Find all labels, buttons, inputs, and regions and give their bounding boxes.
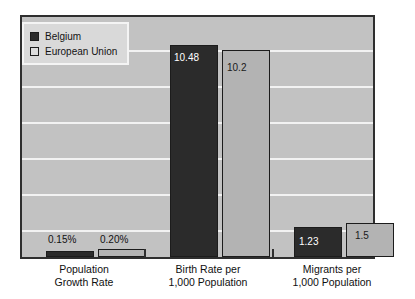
axis-tick — [272, 249, 274, 257]
category-label-population-growth-rate: Population Growth Rate — [20, 263, 148, 289]
category-label-line: 1,000 Population — [144, 276, 272, 289]
bar-label-belgium-population-growth-rate: 0.15% — [48, 234, 76, 245]
category-label-line: Population — [20, 263, 148, 276]
bar-european-union-migrants[interactable] — [346, 223, 394, 257]
legend-swatch-icon — [30, 32, 39, 41]
category-axis-labels: Population Growth Rate Birth Rate per 1,… — [20, 263, 375, 297]
bar-label-european-union-population-growth-rate: 0.20% — [100, 234, 128, 245]
category-label-line: 1,000 Population — [268, 276, 396, 289]
legend-label: European Union — [45, 46, 117, 57]
axis-tick — [144, 249, 146, 257]
bar-european-union-population-growth-rate[interactable] — [98, 249, 146, 257]
bar-belgium-birth-rate[interactable] — [170, 45, 218, 257]
bar-label-european-union-migrants: 1.5 — [355, 230, 369, 241]
legend-label: Belgium — [45, 31, 81, 42]
bar-european-union-birth-rate[interactable] — [222, 50, 270, 257]
category-label-line: Birth Rate per — [144, 263, 272, 276]
legend-item-european-union[interactable]: European Union — [30, 44, 117, 58]
category-label-migrants: Migrants per 1,000 Population — [268, 263, 396, 289]
category-label-line: Growth Rate — [20, 276, 148, 289]
bar-label-belgium-birth-rate: 10.48 — [174, 52, 199, 63]
category-label-birth-rate: Birth Rate per 1,000 Population — [144, 263, 272, 289]
legend: Belgium European Union — [22, 22, 129, 65]
bar-label-belgium-migrants: 1.23 — [299, 236, 318, 247]
legend-item-belgium[interactable]: Belgium — [30, 29, 117, 43]
legend-swatch-icon — [30, 47, 39, 56]
bar-label-european-union-birth-rate: 10.2 — [227, 62, 246, 73]
chart-screenshot: 0.15% 0.20% 10.48 10.2 1.23 1.5 Belgium … — [0, 0, 415, 299]
bar-belgium-population-growth-rate[interactable] — [46, 251, 94, 257]
category-label-line: Migrants per — [268, 263, 396, 276]
